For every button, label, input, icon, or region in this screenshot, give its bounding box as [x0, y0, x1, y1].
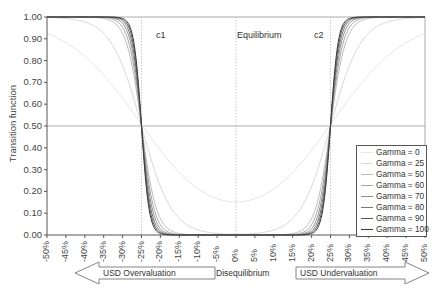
x-tick-label: 25% [325, 244, 335, 262]
legend-item: Gamma = 60 [361, 180, 424, 190]
legend: Gamma = 0Gamma = 25Gamma = 50Gamma = 60G… [356, 145, 427, 237]
c2-label: c2 [314, 30, 324, 40]
x-axis-label: Disequilibrium [216, 268, 269, 278]
legend-swatch [361, 152, 373, 153]
x-tick-label: -50% [41, 241, 51, 262]
legend-swatch [361, 163, 373, 164]
x-tick-label: -25% [136, 241, 146, 262]
y-tick-label: 0.10 [2, 207, 42, 218]
y-tick-label: 0.00 [2, 229, 42, 240]
legend-swatch [361, 207, 373, 208]
x-tick-label: 40% [381, 244, 391, 262]
legend-label: Gamma = 70 [376, 191, 424, 201]
legend-swatch [361, 185, 373, 186]
x-tick-label: 50% [419, 244, 429, 262]
x-tick-label: 35% [362, 244, 372, 262]
legend-label: Gamma = 25 [376, 158, 424, 168]
x-tick-label: -10% [192, 241, 202, 262]
x-tick-label: -20% [154, 241, 164, 262]
legend-swatch [361, 174, 373, 175]
y-tick-label: 0.20 [2, 185, 42, 196]
usd-overvaluation-label: USD Overvaluation [103, 268, 176, 278]
legend-swatch [361, 229, 373, 230]
legend-label: Gamma = 100 [376, 224, 429, 234]
x-tick-label: -35% [98, 241, 108, 262]
x-tick-label: -15% [173, 241, 183, 262]
usd-undervaluation-label: USD Undervaluation [300, 268, 377, 278]
legend-item: Gamma = 0 [361, 147, 420, 157]
x-tick-label: -5% [211, 246, 221, 262]
x-tick-label: 10% [268, 244, 278, 262]
legend-label: Gamma = 90 [376, 213, 424, 223]
equilibrium-label: Equilibrium [237, 30, 282, 40]
legend-item: Gamma = 50 [361, 169, 424, 179]
legend-label: Gamma = 50 [376, 169, 424, 179]
legend-label: Gamma = 60 [376, 180, 424, 190]
x-tick-label: -40% [79, 241, 89, 262]
x-tick-label: 30% [343, 244, 353, 262]
c1-label: c1 [156, 30, 166, 40]
legend-swatch [361, 196, 373, 197]
y-tick-label: 0.90 [2, 33, 42, 44]
legend-swatch [361, 218, 373, 219]
legend-item: Gamma = 25 [361, 158, 424, 168]
legend-item: Gamma = 80 [361, 202, 424, 212]
x-tick-label: -30% [117, 241, 127, 262]
x-tick-label: 15% [287, 244, 297, 262]
legend-item: Gamma = 100 [361, 224, 429, 234]
x-tick-label: 5% [249, 249, 259, 262]
y-axis-label: Transition function [7, 74, 18, 174]
legend-label: Gamma = 80 [376, 202, 424, 212]
x-tick-label: 20% [306, 244, 316, 262]
x-tick-label: -45% [60, 241, 70, 262]
y-tick-label: 1.00 [2, 11, 42, 22]
x-tick-label: 45% [400, 244, 410, 262]
legend-item: Gamma = 70 [361, 191, 424, 201]
legend-item: Gamma = 90 [361, 213, 424, 223]
y-tick-label: 0.80 [2, 55, 42, 66]
legend-label: Gamma = 0 [376, 147, 420, 157]
x-tick-label: 0% [230, 249, 240, 262]
